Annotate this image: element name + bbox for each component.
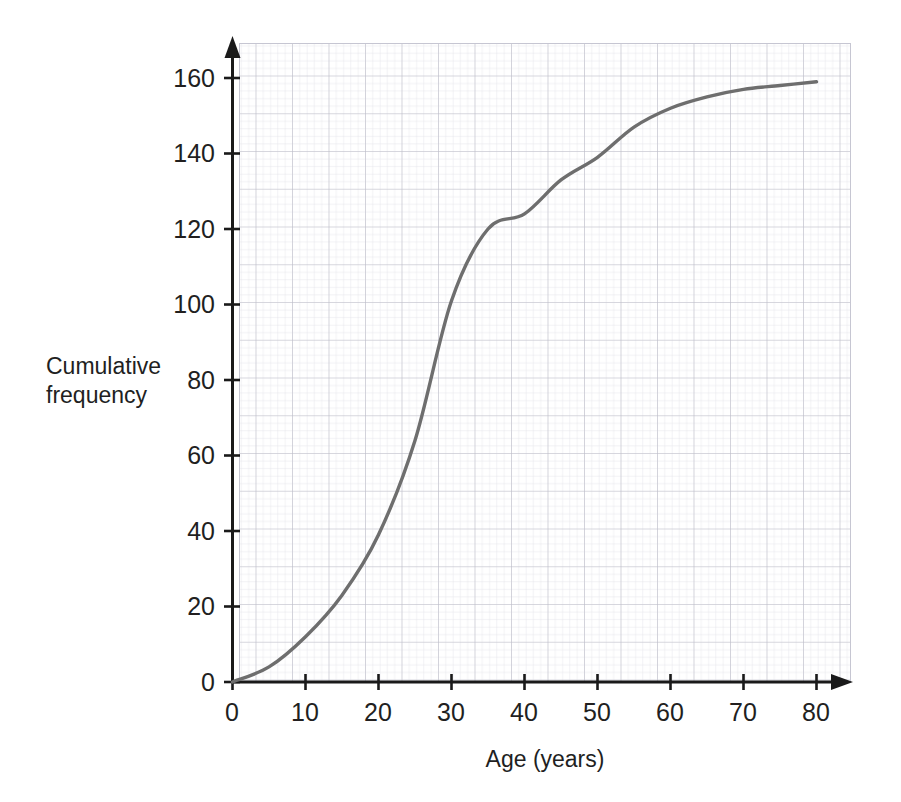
x-tick-label-60: 60 <box>640 700 700 725</box>
y-tick-label-160: 160 <box>145 66 215 91</box>
grid-background <box>240 44 851 683</box>
x-tick-label-0: 0 <box>202 700 262 725</box>
x-tick-label-80: 80 <box>786 700 846 725</box>
y-axis-title: Cumulative frequency <box>46 352 221 410</box>
x-tick-label-50: 50 <box>567 700 627 725</box>
y-tick-label-60: 60 <box>145 443 215 468</box>
x-tick-label-70: 70 <box>713 700 773 725</box>
x-axis-title: Age (years) <box>400 745 690 774</box>
y-tick-label-120: 120 <box>145 217 215 242</box>
cumulative-frequency-chart: 0 20 40 60 80 100 120 140 160 0 10 20 30… <box>0 0 901 802</box>
y-axis <box>224 36 241 682</box>
y-tick-label-100: 100 <box>145 292 215 317</box>
y-tick-label-20: 20 <box>145 594 215 619</box>
y-tick-label-140: 140 <box>145 141 215 166</box>
y-tick-label-0: 0 <box>145 670 215 695</box>
x-tick-label-40: 40 <box>494 700 554 725</box>
x-tick-label-10: 10 <box>275 700 335 725</box>
y-tick-label-40: 40 <box>145 519 215 544</box>
x-tick-label-30: 30 <box>421 700 481 725</box>
x-tick-label-20: 20 <box>348 700 408 725</box>
